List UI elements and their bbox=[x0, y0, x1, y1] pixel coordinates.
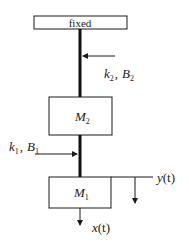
upper-separator: , bbox=[115, 66, 118, 81]
b1-symbol: B bbox=[27, 139, 35, 154]
b2-symbol: B bbox=[122, 66, 130, 81]
mass-spring-diagram: fixed k2,B2 M2 k1,B1 M1 y(t) x(t) bbox=[0, 0, 189, 243]
svg-text:k1,B1: k1,B1 bbox=[9, 139, 39, 156]
svg-text:k2,B2: k2,B2 bbox=[104, 66, 134, 83]
fixed-support: fixed bbox=[34, 16, 127, 29]
lower-coupling-label: k1,B1 bbox=[9, 139, 39, 156]
upper-rod bbox=[79, 29, 82, 97]
mass-m1: M1 bbox=[49, 177, 111, 208]
upper-coupling-label: k2,B2 bbox=[104, 66, 134, 83]
m2-subscript: 2 bbox=[86, 117, 90, 126]
k2-subscript: 2 bbox=[110, 74, 114, 83]
b1-subscript: 1 bbox=[35, 147, 39, 156]
x-label: x(t) bbox=[91, 220, 110, 235]
lower-rod bbox=[79, 135, 82, 177]
lower-separator: , bbox=[20, 139, 23, 154]
k1-subscript: 1 bbox=[15, 147, 19, 156]
y-label: y(t) bbox=[155, 170, 175, 185]
fixed-label: fixed bbox=[69, 17, 92, 29]
b2-subscript: 2 bbox=[130, 74, 134, 83]
m1-subscript: 1 bbox=[85, 193, 89, 202]
mass-m2: M2 bbox=[49, 97, 112, 135]
